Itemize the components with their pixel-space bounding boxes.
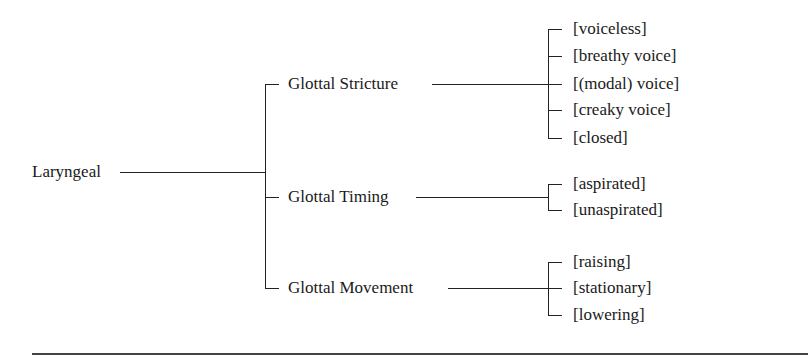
branch-node-glottal-movement: Glottal Movement xyxy=(288,278,413,298)
bottom-rule-divider xyxy=(32,353,808,355)
leaf-node-voiceless: [voiceless] xyxy=(573,19,647,39)
leaf-node-closed: [closed] xyxy=(573,128,628,148)
stricture-tick xyxy=(265,84,279,85)
leaf-tick xyxy=(548,315,562,316)
leaf-node-raising: [raising] xyxy=(573,252,631,272)
leaf-node-lowering: [lowering] xyxy=(573,305,645,325)
leaf-tick xyxy=(548,210,562,211)
timing-tick xyxy=(265,197,279,198)
leaf-tick xyxy=(548,110,562,111)
leaf-node-modal-voice: [(modal) voice] xyxy=(573,74,679,94)
leaf-tick xyxy=(548,184,562,185)
movement-connector-line xyxy=(448,288,549,289)
timing-connector-line xyxy=(416,197,549,198)
timing-bracket-line xyxy=(548,184,549,211)
leaf-node-stationary: [stationary] xyxy=(573,278,651,298)
leaf-tick xyxy=(548,288,562,289)
leaf-node-creaky-voice: [creaky voice] xyxy=(573,100,671,120)
leaf-tick xyxy=(548,29,562,30)
branch-node-glottal-timing: Glottal Timing xyxy=(288,187,389,207)
leaf-node-breathy-voice: [breathy voice] xyxy=(573,46,676,66)
stricture-connector-line xyxy=(432,84,549,85)
root-connector-line xyxy=(120,172,266,173)
leaf-tick xyxy=(548,262,562,263)
leaf-node-aspirated: [aspirated] xyxy=(573,174,646,194)
leaf-tick xyxy=(548,56,562,57)
leaf-node-unaspirated: [unaspirated] xyxy=(573,200,663,220)
movement-tick xyxy=(265,288,279,289)
leaf-tick xyxy=(548,84,562,85)
root-bracket-line xyxy=(265,84,266,289)
root-node-laryngeal: Laryngeal xyxy=(32,162,101,182)
leaf-tick xyxy=(548,138,562,139)
branch-node-glottal-stricture: Glottal Stricture xyxy=(288,74,398,94)
